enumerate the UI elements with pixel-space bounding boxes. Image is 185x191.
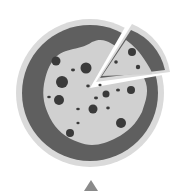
- pizza-icon: [0, 0, 185, 191]
- cursor-arrow-icon: [84, 180, 98, 191]
- pizza-illustration: [0, 0, 185, 191]
